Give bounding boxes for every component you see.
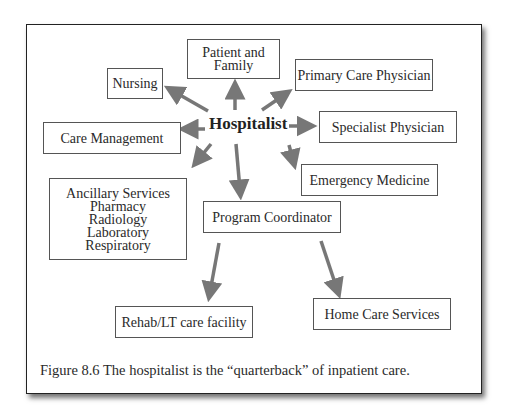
node-ancillary-services: Ancillary Services Pharmacy Radiology La… [49,178,187,260]
node-label: Specialist Physician [332,121,444,134]
node-program-coordinator: Program Coordinator [203,201,341,233]
node-label: Emergency Medicine [310,174,430,187]
node-primary-care-physician: Primary Care Physician [295,59,433,91]
node-label: Home Care Services [324,308,439,321]
figure-caption: Figure 8.6 The hospitalist is the “quart… [40,362,410,379]
node-label: Primary Care Physician [298,69,431,82]
node-rehab-lt-care-facility: Rehab/LT care facility [115,306,253,338]
node-care-management: Care Management [43,122,181,154]
line: Respiratory [66,239,170,252]
center-node-hospitalist: Hospitalist [209,114,287,134]
node-label: Program Coordinator [212,211,331,224]
node-patient-family: Patient and Family [187,39,280,79]
line: Ancillary Services [66,187,170,200]
line: Family [202,59,265,72]
node-label: Nursing [112,77,157,90]
line: Pharmacy [66,200,170,213]
node-specialist-physician: Specialist Physician [319,111,457,143]
line: Laboratory [66,226,170,239]
line: Radiology [66,213,170,226]
node-emergency-medicine: Emergency Medicine [301,164,438,196]
node-label: Rehab/LT care facility [121,316,246,329]
node-label: Care Management [60,132,163,145]
node-home-care-services: Home Care Services [313,298,451,330]
node-ancillary-services-label: Ancillary Services Pharmacy Radiology La… [66,187,170,252]
node-patient-family-label: Patient and Family [202,46,265,72]
node-nursing: Nursing [107,68,163,99]
